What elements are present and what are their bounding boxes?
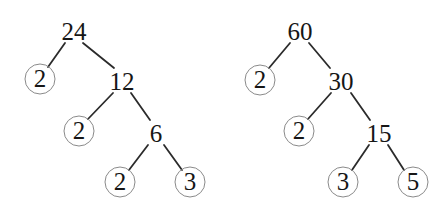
prime-factor-node: 3 — [328, 167, 359, 198]
prime-factor-node: 2 — [284, 116, 315, 147]
prime-factor-node: 2 — [25, 64, 56, 95]
node-value: 3 — [337, 169, 350, 194]
tree-edge — [48, 43, 65, 67]
prime-factor-node: 3 — [175, 167, 206, 198]
tree-edge — [129, 145, 148, 170]
edge-layer — [48, 43, 404, 170]
composite-node: 30 — [329, 69, 354, 94]
node-value: 2 — [293, 118, 306, 143]
prime-factor-node: 2 — [64, 116, 95, 147]
node-value: 3 — [184, 169, 197, 194]
node-value: 2 — [73, 118, 86, 143]
composite-node: 12 — [110, 69, 135, 94]
tree-edge — [352, 145, 369, 170]
tree-edge — [88, 93, 113, 119]
tree-edge — [309, 43, 330, 68]
composite-node: 60 — [288, 19, 313, 44]
prime-factor-node: 2 — [245, 65, 276, 96]
composite-node: 24 — [62, 19, 87, 44]
composite-node: 6 — [150, 121, 163, 146]
composite-node: 15 — [367, 121, 392, 146]
node-value: 2 — [114, 169, 127, 194]
tree-edge — [164, 145, 182, 170]
prime-factor-node: 5 — [398, 167, 429, 198]
node-value: 2 — [34, 66, 47, 91]
tree-edge — [308, 93, 331, 119]
tree-edge — [269, 43, 290, 68]
tree-edge — [83, 43, 114, 68]
tree-edge — [388, 145, 404, 170]
node-value: 5 — [407, 169, 420, 194]
prime-factor-node: 2 — [105, 167, 136, 198]
node-value: 2 — [254, 67, 267, 92]
tree-edge — [131, 93, 150, 120]
tree-edge — [351, 93, 370, 120]
